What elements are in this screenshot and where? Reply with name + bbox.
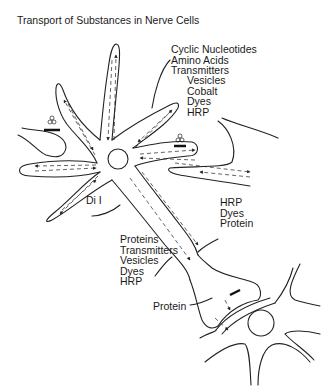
label-hrp-antero: HRP [120, 276, 178, 287]
label-hrp-retro: HRP [220, 197, 253, 208]
label-dil: Di I [86, 195, 102, 206]
label-transsynaptic-protein: Protein [153, 301, 186, 312]
postsynaptic-neuron [200, 264, 320, 385]
label-dyes: Dyes [187, 96, 226, 107]
label-group-retrograde: HRP Dyes Protein [220, 197, 253, 229]
nerve-cell-diagram [0, 0, 326, 389]
label-cyclic-nucleotides: Cyclic Nucleotides [171, 44, 257, 55]
label-group-anterograde: Proteins Transmitters Vesicles Dyes HRP [120, 234, 178, 287]
label-proteins: Proteins [120, 234, 178, 245]
soma-nucleus [108, 149, 128, 169]
label-protein-retro: Protein [220, 218, 253, 229]
label-vesicles-antero: Vesicles [120, 255, 178, 266]
right-terminal [169, 121, 250, 186]
label-hrp: HRP [187, 107, 226, 118]
vesicles [48, 116, 184, 142]
label-vesicles: Vesicles [187, 75, 226, 86]
label-group-dendrite: Cyclic Nucleotides Amino Acids Transmitt… [171, 44, 257, 76]
diagram-title: Transport of Substances in Nerve Cells [17, 14, 199, 26]
left-presynaptic-terminal [18, 128, 66, 157]
label-group-dendrite-2: Vesicles Cobalt Dyes HRP [187, 75, 226, 117]
